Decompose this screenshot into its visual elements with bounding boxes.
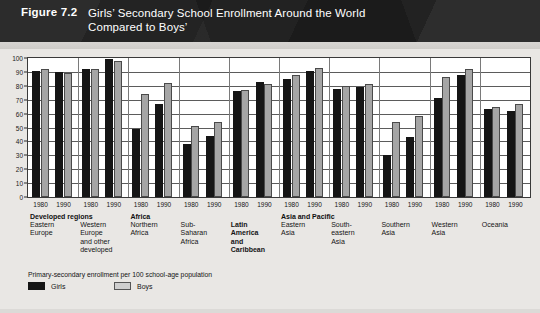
caption-spacer (231, 212, 265, 221)
region-caption-northern: AfricaNorthern Africa (130, 212, 157, 238)
caption-spacer (482, 212, 508, 221)
region-name: Northern Africa (130, 221, 157, 238)
caption-spacer (432, 212, 458, 221)
y-axis-tick-20: 20 (16, 166, 23, 173)
chart-area: 1009080706050403020100 19801990198019901… (0, 49, 540, 313)
region-captions: Developed regionsEastern EuropeWestern E… (28, 212, 532, 270)
bar-boys-southern-asia-1990 (415, 116, 423, 197)
bar-girls-western-europe-and-other-developed-1990 (105, 59, 113, 197)
bar-boys-oceania-1990 (515, 104, 523, 197)
y-axis-tick-80: 80 (16, 82, 23, 89)
figure-title-line2: Compared to Boys’ (88, 20, 518, 34)
bar-boys-eastern-europe-1990 (64, 73, 72, 197)
bar-girls-south-eastern-asia-1980 (333, 89, 341, 197)
bar-boys-northern-africa-1980 (141, 94, 149, 197)
region-name: South- eastern Asia (331, 221, 354, 246)
bar-girls-sub-saharan-africa-1990 (206, 136, 214, 197)
caption-spacer (381, 212, 409, 221)
region-name: Sub- Saharan Africa (181, 221, 207, 246)
y-axis-tick-10: 10 (16, 180, 23, 187)
bar-boys-sub-saharan-africa-1990 (214, 122, 222, 197)
bar-boys-latin-america-and-caribbean-1990 (264, 84, 272, 197)
figure-page: Figure 7.2 Girls’ Secondary School Enrol… (0, 0, 540, 313)
y-axis-tick-90: 90 (16, 68, 23, 75)
x-axis-label-1990-4: 1990 (251, 201, 277, 208)
bar-boys-western-europe-and-other-developed-1980 (91, 69, 99, 197)
bar-girls-eastern-europe-1980 (32, 71, 40, 197)
header-underbar (0, 42, 540, 49)
x-axis-year-labels: 1980199019801990198019901980199019801990… (28, 201, 530, 210)
bar-girls-latin-america-and-caribbean-1980 (233, 91, 241, 197)
bar-girls-sub-saharan-africa-1980 (183, 144, 191, 197)
region-name: Southern Asia (381, 221, 409, 238)
bar-girls-eastern-asia-1990 (306, 71, 314, 197)
bar-girls-eastern-europe-1990 (55, 72, 63, 197)
bar-boys-south-eastern-asia-1990 (365, 84, 373, 197)
bar-girls-oceania-1990 (507, 111, 515, 197)
x-axis-label-1990-6: 1990 (352, 201, 378, 208)
bar-girls-southern-asia-1990 (406, 137, 414, 197)
legend-item-boys: Boys (114, 282, 153, 290)
y-axis-tick-70: 70 (16, 96, 23, 103)
bar-girls-western-asia-1980 (434, 98, 442, 197)
region-separator (78, 58, 79, 197)
bar-boys-latin-america-and-caribbean-1980 (241, 90, 249, 197)
region-caption-western: Western Europe and other developed (80, 212, 112, 255)
bar-girls-oceania-1980 (484, 109, 492, 197)
bar-boys-south-eastern-asia-1980 (342, 86, 350, 197)
region-name: Oceania (482, 221, 508, 229)
legend-item-girls: Girls (28, 282, 65, 290)
bar-boys-sub-saharan-africa-1980 (191, 126, 199, 197)
bar-boys-eastern-asia-1990 (315, 68, 323, 197)
bar-series-layer (28, 58, 530, 197)
figure-title-line1: Girls’ Secondary School Enrollment Aroun… (88, 7, 365, 19)
bar-girls-south-eastern-asia-1990 (356, 87, 364, 197)
figure-header-banner: Figure 7.2 Girls’ Secondary School Enrol… (0, 0, 540, 42)
region-separator (329, 58, 330, 197)
legend-label-girls: Girls (51, 283, 65, 290)
y-axis-tick-100: 100 (12, 55, 23, 62)
bar-boys-oceania-1980 (492, 107, 500, 197)
region-caption-oceania: Oceania (482, 212, 508, 229)
region-name: Eastern Asia (281, 221, 335, 238)
y-axis-tick-0: 0 (19, 194, 23, 201)
bar-boys-eastern-asia-1980 (292, 75, 300, 197)
region-separator (279, 58, 280, 197)
region-caption-latin: Latin America and Caribbean (231, 212, 265, 255)
figure-number: Figure 7.2 (21, 6, 77, 18)
supergroup-label: Asia and Pacific (281, 212, 335, 221)
x-axis-label-1990-7: 1990 (402, 201, 428, 208)
bar-boys-western-europe-and-other-developed-1990 (114, 61, 122, 197)
region-name: Western Asia (432, 221, 458, 238)
region-separator (480, 58, 481, 197)
bar-boys-western-asia-1990 (465, 69, 473, 197)
region-separator (179, 58, 180, 197)
x-axis-label-1990-5: 1990 (302, 201, 328, 208)
x-axis-label-1990-1: 1990 (101, 201, 127, 208)
region-separator (379, 58, 380, 197)
caption-spacer (181, 212, 207, 221)
bar-boys-western-asia-1980 (442, 77, 450, 197)
region-name: Western Europe and other developed (80, 221, 112, 255)
region-separator (430, 58, 431, 197)
region-separator (229, 58, 230, 197)
bar-boys-northern-africa-1990 (164, 83, 172, 197)
legend-swatch-girls (28, 282, 45, 290)
bar-boys-southern-asia-1980 (392, 122, 400, 197)
bar-boys-eastern-europe-1980 (41, 69, 49, 197)
bar-girls-northern-africa-1990 (155, 104, 163, 197)
y-axis: 1009080706050403020100 (0, 57, 27, 198)
bar-girls-latin-america-and-caribbean-1990 (256, 82, 264, 197)
footer-rule (0, 309, 540, 313)
y-axis-tick-60: 60 (16, 110, 23, 117)
x-axis-label-1990-9: 1990 (502, 201, 528, 208)
region-caption-sub: Sub- Saharan Africa (181, 212, 207, 246)
x-axis-label-1990-2: 1990 (151, 201, 177, 208)
region-caption-southern: Southern Asia (381, 212, 409, 238)
x-axis-label-1990-8: 1990 (452, 201, 478, 208)
region-caption-eastern: Asia and PacificEastern Asia (281, 212, 335, 238)
legend-label-boys: Boys (137, 283, 153, 290)
bar-girls-southern-asia-1980 (383, 155, 391, 197)
y-axis-tick-30: 30 (16, 152, 23, 159)
bar-girls-northern-africa-1980 (132, 129, 140, 197)
